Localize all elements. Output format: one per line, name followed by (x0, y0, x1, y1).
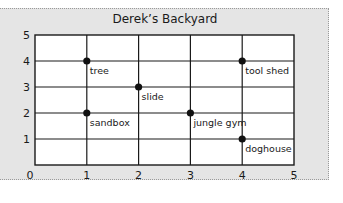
data-point (239, 135, 246, 142)
y-tick-label: 4 (23, 55, 30, 68)
x-tick-label: 2 (135, 169, 142, 182)
coordinate-grid: 01234512345treetool shedslidesandboxjung… (0, 0, 343, 203)
data-point (187, 109, 194, 116)
point-label: jungle gym (192, 117, 246, 128)
point-label: sandbox (90, 117, 130, 128)
x-tick-label: 1 (83, 169, 90, 182)
y-tick-label: 5 (23, 29, 30, 42)
y-tick-label: 2 (23, 107, 30, 120)
x-tick-label: 0 (27, 169, 34, 182)
point-label: doghouse (245, 143, 292, 154)
x-tick-label: 5 (291, 169, 298, 182)
y-tick-label: 3 (23, 81, 30, 94)
data-point (83, 57, 90, 64)
y-tick-label: 1 (23, 133, 30, 146)
data-point (135, 83, 142, 90)
x-tick-label: 4 (239, 169, 246, 182)
x-tick-label: 3 (187, 169, 194, 182)
point-label: tool shed (245, 65, 289, 76)
point-label: tree (90, 65, 109, 76)
point-label: slide (142, 91, 164, 102)
data-point (83, 109, 90, 116)
data-point (239, 57, 246, 64)
